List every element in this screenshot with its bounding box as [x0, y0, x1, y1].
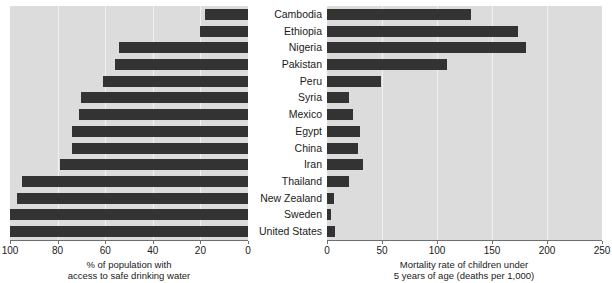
axis-tick-label: 40 — [147, 245, 158, 256]
gridline — [58, 6, 59, 240]
category-label: China — [295, 141, 322, 156]
category-label: United States — [259, 224, 322, 239]
bar — [103, 76, 248, 87]
right-chart-panel — [327, 6, 602, 240]
two-panel-bar-chart: CambodiaEthiopiaNigeriaPakistanPeruSyria… — [0, 0, 612, 283]
axis-tick-label: 150 — [484, 245, 501, 256]
axis-tick — [153, 241, 154, 244]
axis-tick-label: 0 — [245, 245, 251, 256]
gridline — [547, 6, 548, 240]
bar — [327, 143, 358, 154]
bar — [79, 109, 248, 120]
left-chart-panel — [10, 6, 248, 240]
gridline — [200, 6, 201, 240]
category-label: Ethiopia — [284, 24, 322, 39]
bar — [72, 126, 248, 137]
category-label: Iran — [304, 157, 322, 172]
bar — [327, 42, 526, 53]
axis-tick — [602, 241, 603, 244]
axis-tick — [200, 241, 201, 244]
category-label: Mexico — [289, 107, 322, 122]
right-axis-title-line2: 5 years of age (deaths per 1,000) — [394, 270, 534, 281]
category-label: Syria — [298, 90, 322, 105]
axis-tick-label: 0 — [324, 245, 330, 256]
gridline — [105, 6, 106, 240]
gridline — [437, 6, 438, 240]
gridline — [382, 6, 383, 240]
axis-tick — [547, 241, 548, 244]
axis-tick — [327, 241, 328, 244]
axis-tick-label: 80 — [52, 245, 63, 256]
bar — [327, 26, 518, 37]
gridline — [492, 6, 493, 240]
bar — [327, 176, 349, 187]
bar — [119, 42, 248, 53]
left-axis-title: % of population with access to safe drin… — [68, 259, 191, 281]
bar — [115, 59, 248, 70]
bar — [327, 92, 349, 103]
bar — [81, 92, 248, 103]
bar — [327, 9, 471, 20]
bar — [327, 193, 334, 204]
axis-tick — [248, 241, 249, 244]
axis-tick-label: 100 — [429, 245, 446, 256]
axis-tick-label: 250 — [594, 245, 611, 256]
axis-tick-label: 50 — [376, 245, 387, 256]
right-axis-title: Mortality rate of children under 5 years… — [394, 259, 534, 281]
bar — [327, 109, 353, 120]
bar — [327, 209, 331, 220]
bar — [327, 126, 360, 137]
axis-tick-label: 100 — [2, 245, 19, 256]
bar — [327, 159, 363, 170]
bar — [327, 226, 335, 237]
category-label: Nigeria — [289, 40, 322, 55]
axis-tick-label: 200 — [539, 245, 556, 256]
gridline — [153, 6, 154, 240]
bar — [327, 59, 447, 70]
axis-tick — [105, 241, 106, 244]
left-axis-title-line1: % of population with — [86, 259, 171, 270]
bar — [200, 26, 248, 37]
axis-tick — [437, 241, 438, 244]
axis-tick — [58, 241, 59, 244]
category-label: Sweden — [284, 207, 322, 222]
bar — [72, 143, 248, 154]
category-axis-labels: CambodiaEthiopiaNigeriaPakistanPeruSyria… — [250, 6, 325, 240]
bar — [327, 76, 381, 87]
right-axis-title-line1: Mortality rate of children under — [400, 259, 528, 270]
category-label: Thailand — [282, 174, 322, 189]
bar — [10, 209, 248, 220]
bar — [205, 9, 248, 20]
category-label: New Zealand — [260, 191, 322, 206]
right-axis-line — [327, 240, 602, 241]
bar — [60, 159, 248, 170]
axis-tick — [492, 241, 493, 244]
bar — [17, 193, 248, 204]
axis-tick — [10, 241, 11, 244]
axis-tick-label: 20 — [195, 245, 206, 256]
category-label: Peru — [300, 74, 322, 89]
left-axis-title-line2: access to safe drinking water — [68, 270, 191, 281]
category-label: Pakistan — [282, 57, 322, 72]
category-label: Cambodia — [274, 7, 322, 22]
bar — [10, 226, 248, 237]
bar — [22, 176, 248, 187]
axis-tick — [382, 241, 383, 244]
left-axis-line — [10, 240, 248, 241]
axis-tick-label: 60 — [100, 245, 111, 256]
category-label: Egypt — [295, 124, 322, 139]
